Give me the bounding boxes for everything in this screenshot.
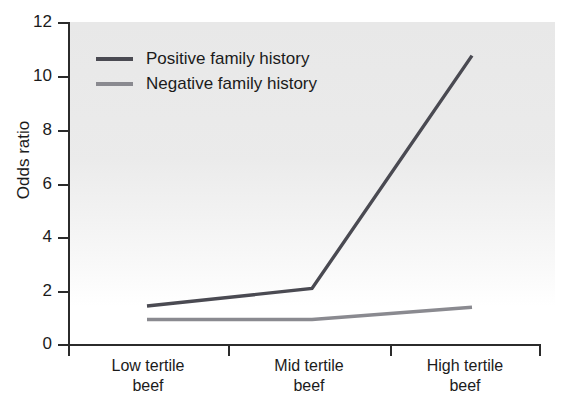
series-line-positive bbox=[147, 56, 472, 306]
odds-ratio-line-chart: 12 10 8 6 4 2 0 Odds ratio Low tertile b… bbox=[0, 0, 571, 419]
series-line-negative bbox=[147, 307, 472, 319]
data-lines bbox=[0, 0, 571, 419]
